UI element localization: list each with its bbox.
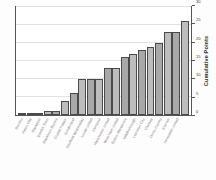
bar (147, 47, 155, 115)
bar (27, 113, 35, 115)
x-axis-tick (181, 117, 190, 175)
y-axis-tick-label: 0 (196, 110, 198, 114)
bar (70, 93, 78, 115)
y-axis-tick-label: 30 (196, 0, 201, 4)
bar (61, 101, 69, 115)
x-axis-tick: Newcastle United (173, 117, 182, 175)
bar (112, 68, 120, 115)
y-axis-tick (192, 42, 195, 43)
bar (164, 32, 172, 115)
bar (78, 79, 86, 115)
y-axis-tick (192, 5, 195, 6)
bar (52, 111, 60, 115)
y-axis-tick (192, 115, 195, 116)
bar (172, 32, 180, 115)
bar-series (16, 7, 191, 115)
bar (138, 50, 146, 115)
bar (129, 54, 137, 115)
figure: 051015202530 Cumulative Points BurnleyAs… (0, 0, 216, 180)
bar (181, 21, 189, 115)
bar (155, 43, 163, 115)
y-axis-tick (192, 60, 195, 61)
plot-area (15, 6, 192, 116)
x-axis-labels: BurnleyAston VillaBlackpoolIpswich TownB… (15, 117, 192, 175)
y-axis-title: Cumulative Points (200, 6, 212, 116)
bar (18, 113, 26, 115)
y-axis-tick-label: 5 (196, 92, 198, 96)
bar (95, 79, 103, 115)
y-axis-title-label: Cumulative Points (203, 36, 209, 87)
y-axis-tick (192, 97, 195, 98)
bar (104, 68, 112, 115)
bar (35, 113, 43, 115)
bar (121, 57, 129, 115)
y-axis-tick (192, 78, 195, 79)
bar (44, 111, 52, 115)
bar (87, 79, 95, 115)
y-axis-tick (192, 23, 195, 24)
